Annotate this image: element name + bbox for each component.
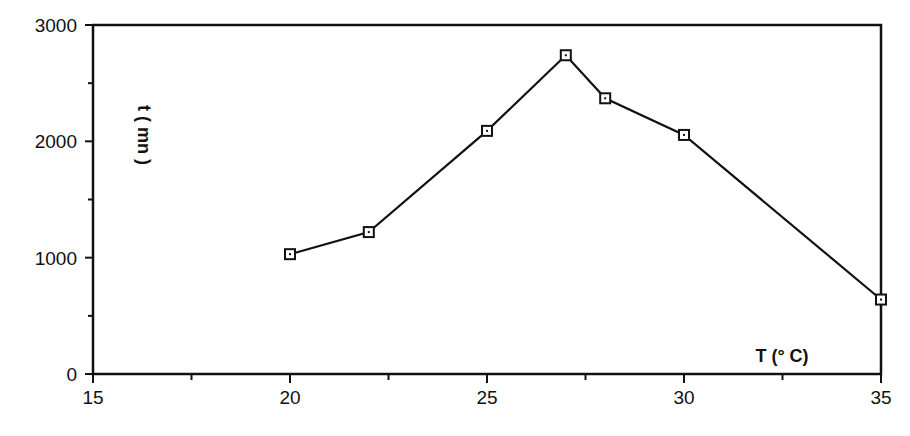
y-tick-label: 1000	[35, 248, 77, 269]
data-point-dot	[683, 134, 685, 136]
x-tick-label: 35	[870, 387, 891, 408]
x-tick-label: 20	[279, 387, 300, 408]
data-series	[285, 50, 886, 304]
y-tick-label: 0	[66, 364, 77, 385]
series-line	[290, 55, 881, 299]
data-point-dot	[604, 97, 606, 99]
x-tick-label: 30	[673, 387, 694, 408]
y-tick-label: 2000	[35, 131, 77, 152]
line-chart: 0100020003000 1520253035 t ( mn ) T (° C…	[0, 0, 910, 436]
data-point-dot	[289, 253, 291, 255]
y-tick-label: 3000	[35, 15, 77, 36]
y-axis-title: t ( mn )	[134, 105, 154, 165]
x-axis-ticks: 1520253035	[82, 374, 891, 408]
data-point-dot	[368, 231, 370, 233]
x-axis-title: T (° C)	[755, 346, 808, 366]
data-point-dot	[486, 130, 488, 132]
x-tick-label: 15	[82, 387, 103, 408]
data-point-dot	[880, 299, 882, 301]
y-axis-ticks: 0100020003000	[35, 15, 93, 385]
x-tick-label: 25	[476, 387, 497, 408]
data-point-dot	[565, 54, 567, 56]
